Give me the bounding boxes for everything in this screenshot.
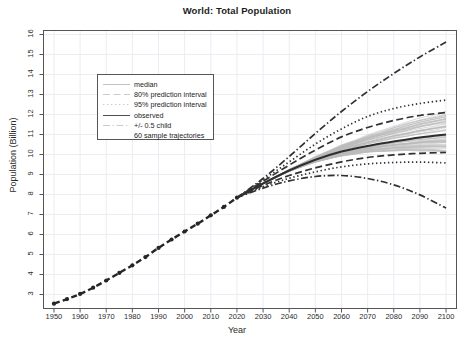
y-tick-label: 15: [25, 44, 34, 64]
y-tick-label: 10: [25, 144, 34, 164]
chart-legend: median80% prediction interval95% predict…: [97, 74, 214, 140]
legend-line-sample: [103, 94, 130, 95]
y-tick-label: 6: [25, 224, 34, 244]
y-tick-label: 11: [25, 124, 34, 144]
chart-figure: World: Total Population Population (Bill…: [0, 0, 474, 344]
y-tick-label: 7: [25, 204, 34, 224]
legend-line-sample: [103, 84, 130, 85]
legend-label: 60 sample trajectories: [134, 130, 204, 141]
plot-canvas: [0, 0, 474, 344]
y-tick-label: 4: [25, 264, 34, 284]
legend-line-sample: [103, 104, 130, 105]
x-tick-label: 2100: [431, 312, 461, 321]
y-tick-label: 14: [25, 64, 34, 84]
legend-line-sample: [103, 135, 130, 136]
legend-line-sample: [103, 125, 130, 126]
y-tick-label: 5: [25, 244, 34, 264]
y-tick-label: 16: [25, 24, 34, 44]
y-tick-label: 9: [25, 164, 34, 184]
y-tick-label: 3: [25, 284, 34, 304]
legend-item: 60 sample trajectories: [98, 130, 215, 141]
y-tick-label: 8: [25, 184, 34, 204]
y-tick-label: 13: [25, 84, 34, 104]
y-tick-label: 12: [25, 104, 34, 124]
legend-line-sample: [103, 115, 130, 116]
